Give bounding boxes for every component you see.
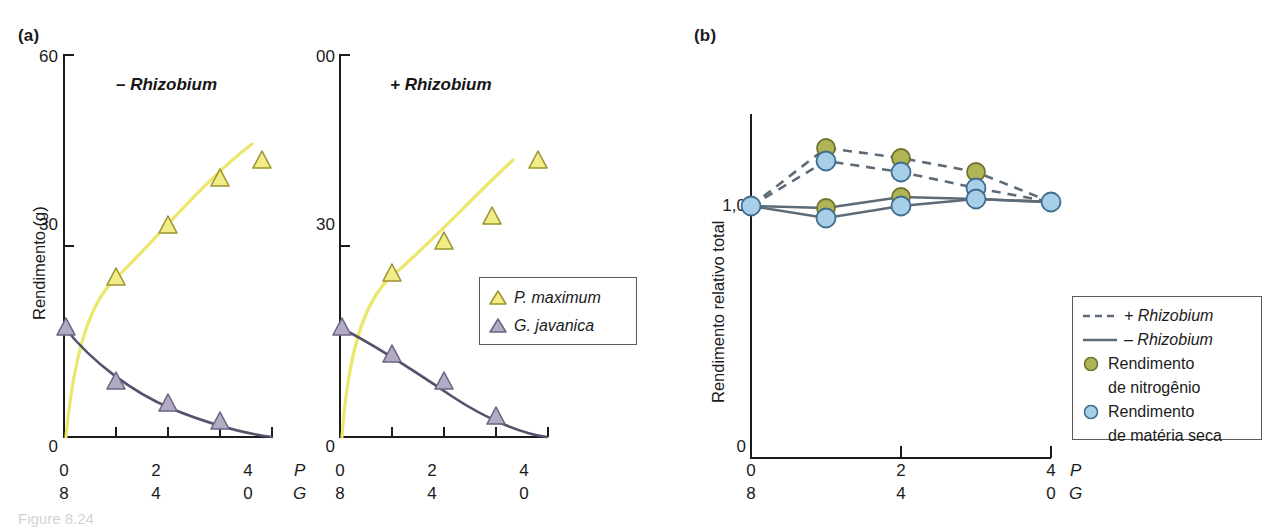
legend-item-g-javanica: G. javanica — [488, 312, 628, 340]
panel-b-plot — [739, 110, 1079, 520]
legend-item-p-maximum: P. maximum — [488, 284, 628, 312]
triangle-up-yellow-icon — [488, 289, 514, 307]
circle-blue-icon — [1082, 403, 1108, 421]
legend-label-minus-rhizobium: – Rhizobium — [1124, 331, 1213, 349]
figure-caption-strip: Figure 8.24 — [0, 514, 1275, 528]
panel-a-right-xtick-bottom-4: 4 — [420, 484, 444, 504]
legend-label-drymatter-yield: Rendimento — [1108, 403, 1194, 421]
solid-line-icon — [1082, 335, 1124, 345]
panel-a-left-xtick-bottom-8: 8 — [52, 484, 76, 504]
figure-root: (a) Rendimento (g) – Rhizobium 60 30 0 0… — [0, 0, 1275, 528]
panel-a-right-plot — [328, 52, 598, 472]
legend-item-plus-rhizobium: + Rhizobium — [1082, 304, 1252, 328]
panel-a-pg-label-g: G — [293, 484, 306, 504]
panel-a-left-points-p-maximum — [107, 151, 271, 285]
panel-a-left-curve-p-maximum — [66, 144, 252, 437]
legend-label-nitrogen-yield-line2: de nitrogênio — [1108, 379, 1201, 397]
legend-label-plus-rhizobium: + Rhizobium — [1124, 307, 1213, 325]
panel-a-left-curve-g-javanica — [65, 328, 272, 437]
panel-a-legend: P. maximum G. javanica — [479, 277, 637, 345]
panel-b-y-axis-title: Rendimento relativo total — [709, 220, 728, 403]
legend-label-g-javanica: G. javanica — [514, 317, 594, 335]
legend-label-drymatter-yield-line2: de matéria seca — [1108, 427, 1222, 445]
panel-a-right-xtick-bottom-8: 8 — [328, 484, 352, 504]
panel-a-right-xtick-bottom-0: 0 — [512, 484, 536, 504]
panel-a-left-plot — [52, 52, 322, 472]
legend-item-drymatter-yield: Rendimento — [1082, 400, 1252, 424]
triangle-up-purple-icon — [488, 317, 514, 335]
legend-label-nitrogen-yield: Rendimento — [1108, 355, 1194, 373]
legend-label-p-maximum: P. maximum — [514, 289, 601, 307]
panel-a-label: (a) — [18, 26, 39, 46]
legend-item-nitrogen-yield: Rendimento — [1082, 352, 1252, 376]
panel-b-label: (b) — [694, 26, 716, 46]
legend-item-minus-rhizobium: – Rhizobium — [1082, 328, 1252, 352]
panel-b-legend: + Rhizobium – Rhizobium Rendimento de ni… — [1072, 296, 1262, 440]
panel-a-pg-label-p: P — [294, 461, 305, 481]
figure-caption: Figure 8.24 — [18, 514, 94, 527]
panel-a-left-xtick-bottom-0: 0 — [236, 484, 260, 504]
circle-olive-icon — [1082, 355, 1108, 373]
legend-label-nitrogen-yield-line2-row: de nitrogênio — [1082, 376, 1252, 400]
panel-a-left-xtick-bottom-4: 4 — [144, 484, 168, 504]
panel-a-left-axes — [64, 54, 272, 437]
legend-label-drymatter-yield-line2-row: de matéria seca — [1082, 424, 1252, 448]
dashed-line-icon — [1082, 311, 1124, 321]
